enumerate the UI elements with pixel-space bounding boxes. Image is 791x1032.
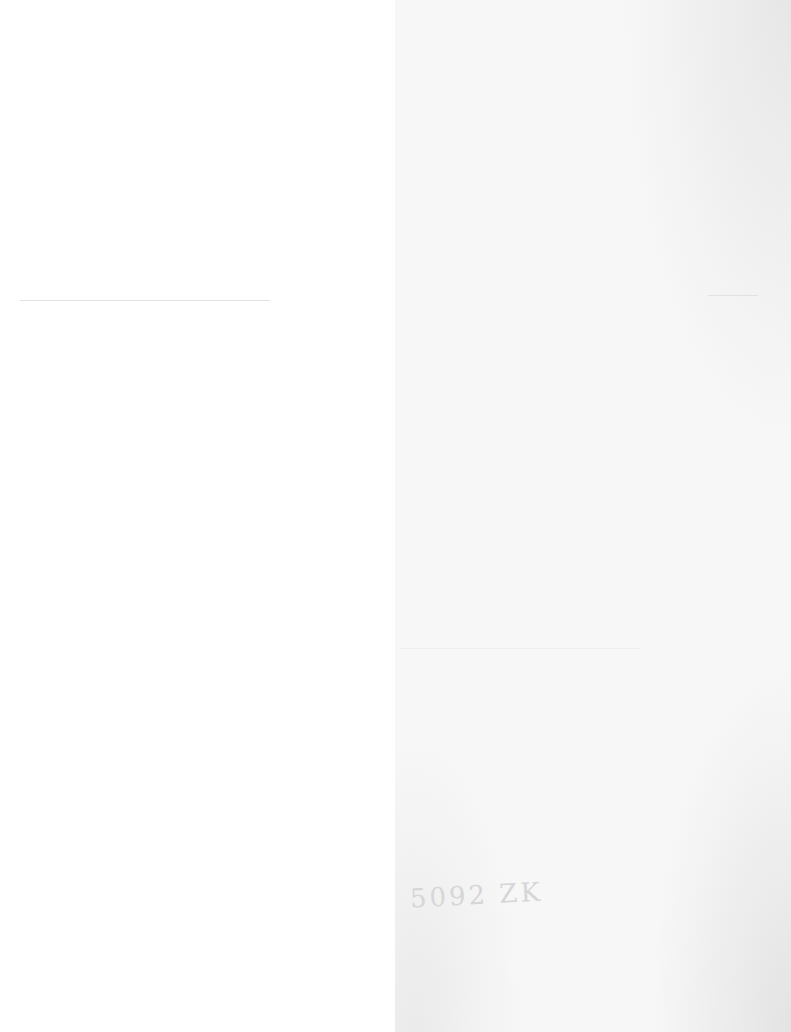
faint-rule [20, 300, 270, 301]
faint-rule [708, 295, 758, 296]
page-right-half [395, 0, 791, 1032]
page-left-half [0, 0, 395, 1032]
faint-bleed-line [400, 648, 640, 649]
